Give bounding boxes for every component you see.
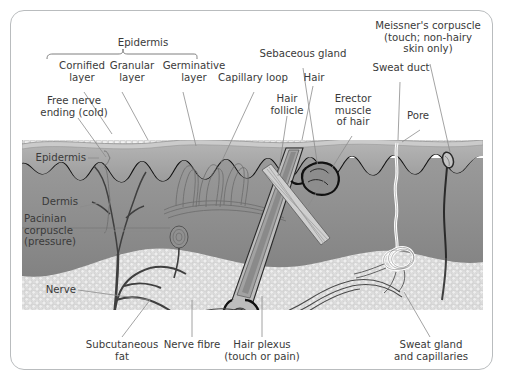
sweat-duct-structure [395,143,397,250]
label-pore: Pore [396,110,440,122]
label-free-nerve-ending: Free nerve ending (cold) [20,95,128,118]
label-hair-plexus: Hair plexus (touch or pain) [210,339,314,362]
label-capillary-loop: Capillary loop [205,72,301,84]
label-nerve: Nerve [12,284,76,296]
label-sebaceous-gland: Sebaceous gland [243,48,363,60]
label-sweat-duct: Sweat duct [358,62,444,74]
skin-anatomy-figure: Epidermis Cornified layer Granular layer… [0,0,505,388]
epidermis-brace [47,49,197,59]
label-pacinian-corpuscle: Pacinian corpuscle (pressure) [24,213,104,248]
label-sweat-gland-and-capillaries: Sweat gland and capillaries [378,339,484,362]
label-hair-follicle: Hair follicle [261,93,313,116]
label-epidermis-side: Epidermis [12,152,86,164]
label-hair: Hair [294,72,334,84]
leader-germinative [183,92,196,146]
label-meissners-corpuscle: Meissner's corpuscle (touch; non-hairy s… [366,20,490,55]
label-epidermis-group: Epidermis [73,37,213,49]
label-erector-muscle-of-hair: Erector muscle of hair [327,93,379,128]
leader-meissner [430,64,450,152]
label-dermis-side: Dermis [12,196,78,208]
